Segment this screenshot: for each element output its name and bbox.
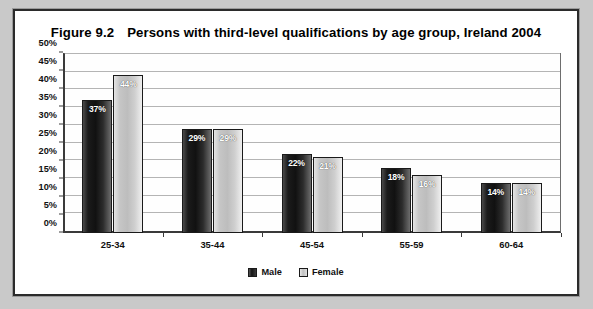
bar-female-45-54: 21% <box>313 157 343 233</box>
chart-legend: Male Female <box>15 267 577 277</box>
x-axis-label-60-64: 60-64 <box>499 239 523 250</box>
bar-value-label: 29% <box>214 133 242 143</box>
bar-female-25-34: 44% <box>113 75 143 233</box>
bar-value-label: 37% <box>83 104 111 114</box>
bar-group: 37%44% <box>82 53 143 233</box>
legend-label-male: Male <box>261 267 281 277</box>
y-axis-tick-label: 45% <box>39 56 57 66</box>
y-axis-tick-label: 25% <box>39 128 57 138</box>
page-background: Figure 9.2Persons with third-level quali… <box>0 0 593 309</box>
bar-female-55-59: 16% <box>412 175 442 233</box>
chart-title: Figure 9.2Persons with third-level quali… <box>15 25 577 40</box>
y-axis-tick-label: 30% <box>39 110 57 120</box>
bar-male-60-64: 14% <box>481 183 511 233</box>
legend-label-female: Female <box>312 267 344 277</box>
bar-male-55-59: 18% <box>381 168 411 233</box>
bar-value-label: 14% <box>513 187 541 197</box>
bar-group: 14%14% <box>481 53 542 233</box>
bar-female-60-64: 14% <box>512 183 542 233</box>
bar-male-25-34: 37% <box>82 100 112 233</box>
y-axis-tick-label: 20% <box>39 146 57 156</box>
bar-group: 29%29% <box>182 53 243 233</box>
legend-item-male: Male <box>248 267 281 277</box>
figure-frame: Figure 9.2Persons with third-level quali… <box>13 9 579 296</box>
y-axis-tick-label: 15% <box>39 164 57 174</box>
y-axis-tick-label: 40% <box>39 74 57 84</box>
bar-value-label: 18% <box>382 172 410 182</box>
x-axis-tick-mark <box>561 233 562 237</box>
bar-male-45-54: 22% <box>282 154 312 233</box>
y-axis-tick-label: 35% <box>39 92 57 102</box>
bar-group: 22%21% <box>282 53 343 233</box>
y-axis-tick-label: 0% <box>44 218 57 228</box>
legend-item-female: Female <box>299 267 344 277</box>
bar-value-label: 14% <box>482 187 510 197</box>
figure-number: Figure 9.2 <box>51 25 114 40</box>
y-axis-tick-label: 10% <box>39 182 57 192</box>
bar-value-label: 29% <box>183 133 211 143</box>
bar-value-label: 22% <box>283 158 311 168</box>
x-axis-label-35-44: 35-44 <box>200 239 224 250</box>
bar-value-label: 21% <box>314 161 342 171</box>
x-axis-label-55-59: 55-59 <box>400 239 424 250</box>
bars-layer: 37%44%29%29%22%21%18%16%14%14% <box>63 53 561 233</box>
bar-female-35-44: 29% <box>213 129 243 233</box>
x-axis-tick-mark <box>362 233 363 237</box>
legend-swatch-male-icon <box>248 268 257 277</box>
x-axis-label-25-34: 25-34 <box>101 239 125 250</box>
bar-value-label: 16% <box>413 179 441 189</box>
y-axis-tick-label: 50% <box>39 38 57 48</box>
bar-male-35-44: 29% <box>182 129 212 233</box>
x-axis-label-45-54: 45-54 <box>300 239 324 250</box>
legend-swatch-female-icon <box>299 268 308 277</box>
x-axis-tick-mark <box>461 233 462 237</box>
plot-wrapper: 0%5%10%15%20%25%30%35%40%45%50% 37%44%29… <box>63 53 561 233</box>
x-axis-tick-mark <box>163 233 164 237</box>
figure-title-text: Persons with third-level qualifications … <box>127 25 541 40</box>
y-axis-tick-label: 5% <box>44 200 57 210</box>
x-axis-tick-mark <box>262 233 263 237</box>
bar-group: 18%16% <box>381 53 442 233</box>
bar-value-label: 44% <box>114 79 142 89</box>
